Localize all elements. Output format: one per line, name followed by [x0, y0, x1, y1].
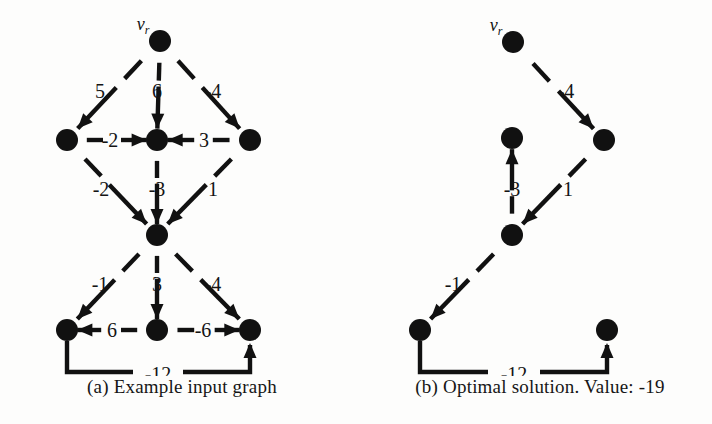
- edge-hub-to-center-bottom-arrowhead: [151, 304, 164, 319]
- edge-layer: [420, 64, 614, 372]
- root-node-label: vr: [137, 14, 150, 37]
- node-root[interactable]: [502, 31, 524, 53]
- node-center-mid[interactable]: [146, 129, 168, 151]
- edge-root-to-left-mid: [78, 61, 142, 129]
- edge-hub-to-right-bottom-tail: [176, 254, 193, 271]
- edge-center-bottom-to-right-bottom-arrowhead: [224, 324, 239, 337]
- edge-center-bottom-to-left-bottom-weight-label: 6: [107, 319, 117, 341]
- edge-hub-to-center-bottom-weight-label: 3: [152, 273, 162, 295]
- edge-left-bottom-to-right-bottom-weight-label: -12: [501, 363, 528, 376]
- node-right-mid[interactable]: [593, 129, 615, 151]
- edge-root-to-center-mid-weight-label: 6: [152, 80, 162, 102]
- edge-right-mid-to-hub: [168, 159, 232, 224]
- node-center-bottom[interactable]: [146, 319, 168, 341]
- edge-left-bottom-to-right-bottom-segment-left: [67, 341, 133, 372]
- node-left-mid[interactable]: [56, 129, 78, 151]
- node-right-bottom[interactable]: [239, 319, 261, 341]
- edge-hub-to-left-bottom-weight-label: -1: [445, 273, 462, 295]
- edge-hub-to-right-bottom-weight-label: -4: [205, 273, 222, 295]
- root-node-label: vr: [490, 15, 503, 38]
- node-left-bottom[interactable]: [56, 319, 78, 341]
- edge-root-to-right-mid-weight-label: -4: [205, 80, 222, 102]
- edge-hub-to-left-bottom-tail: [123, 254, 139, 271]
- edge-root-to-right-mid-weight-label: -4: [558, 80, 575, 102]
- edge-left-bottom-to-right-bottom-segment-left: [420, 341, 488, 372]
- panel-optimal-solution: -4-31-1-12vr (b) Optimal solution. Value…: [356, 0, 712, 424]
- edge-left-mid-to-hub-tail: [85, 159, 101, 176]
- edge-root-to-left-mid-tail: [125, 61, 142, 79]
- node-right-bottom[interactable]: [596, 319, 618, 341]
- edge-root-to-center-mid-arrowhead: [151, 113, 164, 128]
- panel-example-input-graph: 56-4-23-2-31-13-46-6-12vr (a) Example in…: [0, 0, 356, 424]
- edge-root-to-right-mid-tail: [533, 64, 549, 82]
- caption-b: (b) Optimal solution. Value: -19: [356, 376, 712, 398]
- edge-right-mid-to-hub-weight-label: 1: [563, 178, 573, 200]
- node-hub[interactable]: [501, 224, 523, 246]
- edge-hub-to-left-bottom: [431, 254, 494, 319]
- edge-right-mid-to-hub-tail: [215, 159, 232, 176]
- edge-left-bottom-to-right-bottom-arrowhead: [601, 343, 614, 358]
- node-right-mid[interactable]: [239, 129, 261, 151]
- label-layer: -4-31-1-12vr: [445, 15, 575, 376]
- edge-root-to-right-mid-tail: [178, 61, 194, 79]
- edge-left-bottom-to-right-bottom-arrowhead: [244, 343, 257, 358]
- edge-right-mid-to-center-mid-arrowhead: [168, 134, 183, 147]
- edge-center-bottom-to-left-bottom-arrowhead: [77, 324, 92, 337]
- node-left-bottom[interactable]: [409, 319, 431, 341]
- node-root[interactable]: [149, 30, 171, 52]
- edge-right-mid-to-hub-tail: [569, 159, 586, 176]
- graph-b-canvas: -4-31-1-12vr: [356, 0, 712, 376]
- node-isolated-mid[interactable]: [501, 127, 523, 149]
- edge-hub-to-left-bottom-weight-label: -1: [92, 273, 109, 295]
- edge-left-mid-to-center-mid-arrowhead: [132, 134, 147, 147]
- caption-a: (a) Example input graph: [0, 376, 360, 398]
- edge-hub-to-isolated-mid-arrowhead: [506, 149, 519, 164]
- edge-center-mid-to-hub-weight-label: -3: [149, 178, 166, 200]
- figure-root: 56-4-23-2-31-13-46-6-12vr (a) Example in…: [0, 0, 712, 424]
- edge-root-to-left-mid-weight-label: 5: [95, 80, 105, 102]
- edge-left-mid-to-hub-weight-label: -2: [93, 178, 110, 200]
- edge-right-mid-to-hub: [523, 159, 586, 224]
- graph-a-canvas: 56-4-23-2-31-13-46-6-12vr: [0, 0, 356, 376]
- edge-center-mid-to-hub-arrowhead: [151, 209, 164, 224]
- edge-left-bottom-to-right-bottom-segment-right: [540, 345, 607, 372]
- edge-left-bottom-to-right-bottom-segment-right: [183, 345, 250, 372]
- edge-hub-to-isolated-mid-weight-label: -3: [504, 178, 521, 200]
- edge-root-to-center-mid-tail: [159, 63, 160, 81]
- edge-center-bottom-to-right-bottom-weight-label: -6: [195, 319, 212, 341]
- edge-right-mid-to-center-mid-weight-label: 3: [199, 129, 209, 151]
- edge-hub-to-left-bottom-tail: [477, 254, 494, 271]
- edge-right-mid-to-hub-weight-label: 1: [208, 178, 218, 200]
- edge-left-mid-to-center-mid-weight-label: -2: [102, 129, 119, 151]
- edge-left-bottom-to-right-bottom-weight-label: -12: [145, 363, 172, 376]
- node-hub[interactable]: [146, 224, 168, 246]
